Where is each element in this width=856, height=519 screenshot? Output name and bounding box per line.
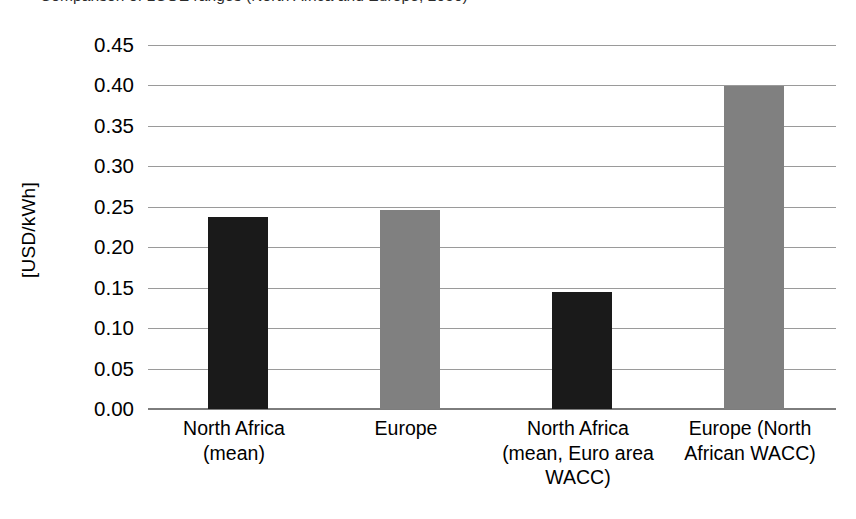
y-axis-tick-label: 0.15: [94, 277, 134, 298]
bar: [552, 292, 612, 409]
x-axis-category-label-line: Europe: [324, 416, 488, 441]
x-axis-category-label-line: (mean): [152, 441, 316, 466]
x-axis-category-label-line: North Africa: [496, 416, 660, 441]
y-axis-tick-label: 0.45: [94, 35, 134, 56]
x-axis-category-labels: North Africa(mean)EuropeNorth Africa(mea…: [148, 416, 836, 512]
x-axis-category-label-line: Europe (North: [668, 416, 832, 441]
chart-title-strip: Comparison of LCOE ranges (North Africa …: [0, 0, 856, 11]
y-axis-tick-label: 0.40: [94, 75, 134, 96]
chart-title: Comparison of LCOE ranges (North Africa …: [40, 0, 468, 5]
bar: [380, 210, 440, 409]
y-axis-title: [USD/kWh]: [14, 150, 44, 310]
y-axis-tick-labels: 0.450.400.350.300.250.200.150.100.050.00: [48, 45, 141, 409]
x-axis-category-label: North Africa(mean): [152, 416, 316, 465]
bar: [208, 217, 268, 409]
plot-area: [148, 45, 836, 409]
bar: [724, 86, 784, 409]
x-axis-category-label: Europe: [324, 416, 488, 441]
x-axis-category-label: Europe (NorthAfrican WACC): [668, 416, 832, 465]
y-axis-tick-label: 0.25: [94, 197, 134, 218]
x-axis-category-label-line: African WACC): [668, 441, 832, 466]
x-axis-category-label-line: North Africa: [152, 416, 316, 441]
x-axis-category-label: North Africa(mean, Euro areaWACC): [496, 416, 660, 490]
y-axis-tick-label: 0.10: [94, 318, 134, 339]
y-axis-title-label: [USD/kWh]: [18, 182, 40, 278]
bar-chart: Comparison of LCOE ranges (North Africa …: [0, 0, 856, 519]
y-axis-tick-label: 0.20: [94, 237, 134, 258]
x-axis-category-label-line: (mean, Euro area: [496, 441, 660, 466]
y-axis-tick-label: 0.30: [94, 156, 134, 177]
x-axis-category-label-line: WACC): [496, 465, 660, 490]
y-axis-tick-label: 0.05: [94, 358, 134, 379]
y-axis-tick-label: 0.00: [94, 399, 134, 420]
y-axis-tick-label: 0.35: [94, 116, 134, 137]
bars-layer: [148, 45, 836, 409]
